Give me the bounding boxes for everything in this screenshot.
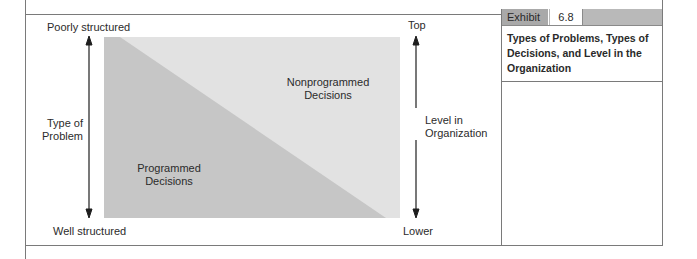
nonprogrammed-line2: Decisions [278,89,378,102]
exhibit-caption: Types of Problems, Types of Decisions, a… [507,31,657,76]
nonprogrammed-line1: Nonprogrammed [278,76,378,89]
left-axis-arrow [86,36,92,218]
exhibit-header-bar: Exhibit 6.8 [502,9,662,26]
right-axis-arrow [413,36,419,218]
programmed-line2: Decisions [128,175,210,188]
well-structured-label: Well structured [53,225,126,238]
nonprogrammed-decisions-label: Nonprogrammed Decisions [278,76,378,102]
type-of-problem-line2: Problem [30,130,83,143]
programmed-decisions-label: Programmed Decisions [128,162,210,188]
lower-label: Lower [403,225,433,238]
level-in-organization-label: Level in Organization [425,114,487,140]
level-in-organization-line2: Organization [425,127,487,140]
top-label: Top [408,19,426,32]
type-of-problem-label: Type of Problem [30,117,83,143]
exhibit-number: 6.8 [550,9,583,25]
programmed-line1: Programmed [128,162,210,175]
poorly-structured-label: Poorly structured [47,21,130,34]
exhibit-tag: Exhibit [502,9,549,25]
type-of-problem-line1: Type of [30,117,83,130]
level-in-organization-line1: Level in [425,114,487,127]
